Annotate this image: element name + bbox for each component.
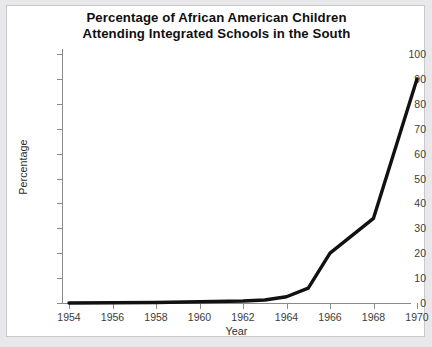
data-line-chart xyxy=(7,6,426,338)
plot-area: 0102030405060708090100 19541956195819601… xyxy=(7,6,426,338)
data-series-line xyxy=(69,79,417,303)
scanned-page-background: Percentage of African American Children … xyxy=(0,0,432,347)
figure-card: Percentage of African American Children … xyxy=(6,5,425,337)
x-axis-title: Year xyxy=(62,325,411,337)
y-axis-title: Percentage xyxy=(17,127,29,207)
